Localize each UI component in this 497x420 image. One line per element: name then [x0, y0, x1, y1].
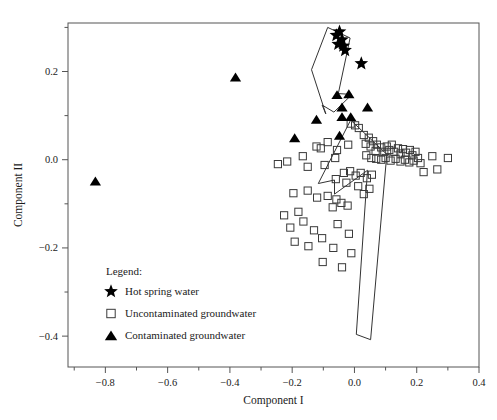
uncontaminated-groundwater-point — [304, 163, 311, 170]
contaminated-groundwater-point — [311, 115, 322, 124]
x-axis-tick-label: 0.0 — [348, 377, 361, 388]
x-axis-tick-label: 0.2 — [410, 377, 423, 388]
uncontaminated-groundwater-point — [305, 243, 312, 250]
triangle-marker-icon — [105, 330, 117, 340]
uncontaminated-groundwater-point — [300, 218, 307, 225]
uncontaminated-groundwater-point — [299, 153, 306, 160]
uncontaminated-groundwater-point — [429, 153, 436, 160]
contaminated-groundwater-point — [345, 112, 356, 121]
uncontaminated-groundwater-point — [392, 155, 399, 162]
uncontaminated-groundwater-point — [420, 169, 427, 176]
uncontaminated-groundwater-point — [314, 194, 321, 201]
uncontaminated-groundwater-point — [338, 264, 345, 271]
uncontaminated-groundwater-point — [295, 208, 302, 215]
uncontaminated-groundwater-point — [352, 172, 359, 179]
x-axis-tick-label: −0.2 — [283, 377, 302, 388]
x-axis-tick-label: −0.6 — [158, 377, 177, 388]
uncontaminated-groundwater-point — [304, 187, 311, 194]
scatter-plot-figure: −0.8−0.6−0.4−0.20.00.20.40.20.0−0.2−0.4 … — [0, 0, 497, 420]
uncontaminated-groundwater-point — [287, 224, 294, 231]
uncontaminated-groundwater-point — [417, 160, 424, 167]
contaminated-groundwater-point — [336, 102, 347, 111]
uncontaminated-groundwater-point — [330, 244, 337, 251]
contaminated-groundwater-point — [336, 112, 347, 121]
uncontaminated-groundwater-point — [284, 158, 291, 165]
axes-group: −0.8−0.6−0.4−0.20.00.20.40.20.0−0.2−0.4 — [39, 23, 486, 388]
uncontaminated-groundwater-point — [274, 161, 281, 168]
contaminated-groundwater-point — [289, 133, 300, 142]
uncontaminated-groundwater-point — [332, 176, 339, 183]
y-axis-tick-label: 0.2 — [45, 66, 58, 77]
legend-entry-label: Contaminated groundwater — [125, 329, 245, 341]
series-star — [330, 25, 369, 70]
series-square — [274, 120, 451, 271]
uncontaminated-groundwater-point — [434, 166, 441, 173]
contaminated-groundwater-point — [362, 102, 373, 111]
uncontaminated-groundwater-point — [345, 141, 352, 148]
uncontaminated-groundwater-point — [310, 227, 317, 234]
x-axis-tick-label: 0.4 — [472, 377, 486, 388]
y-axis-tick-label: 0.0 — [45, 154, 58, 165]
legend-entry: Contaminated groundwater — [105, 329, 246, 341]
legend-title: Legend: — [106, 265, 142, 277]
square-marker-icon — [107, 309, 115, 317]
uncontaminated-groundwater-point — [348, 250, 355, 257]
uncontaminated-groundwater-point — [363, 152, 370, 159]
uncontaminated-groundwater-point — [324, 139, 331, 146]
uncontaminated-groundwater-point — [444, 154, 451, 161]
uncontaminated-groundwater-point — [321, 161, 328, 168]
hot-spring-water-point — [354, 56, 368, 69]
star-marker-icon — [104, 284, 118, 297]
contaminated-groundwater-point — [230, 72, 241, 81]
legend-entry-label: Uncontaminated groundwater — [125, 307, 256, 319]
uncontaminated-groundwater-point — [334, 221, 341, 228]
contaminated-groundwater-point — [331, 90, 342, 99]
x-axis-tick-label: −0.8 — [96, 377, 115, 388]
series-triangle — [90, 72, 373, 185]
group-outline-polygons — [312, 27, 387, 339]
contaminated-groundwater-point — [90, 177, 101, 186]
legend-entry-label: Hot spring water — [125, 285, 199, 297]
legend: Legend:Hot spring waterUncontaminated gr… — [104, 265, 256, 341]
uncontaminated-groundwater-point — [319, 235, 326, 242]
x-axis-tick-label: −0.4 — [220, 377, 240, 388]
y-axis-tick-label: −0.4 — [39, 331, 59, 342]
uncontaminated-groundwater-point — [324, 192, 331, 199]
uncontaminated-groundwater-point — [355, 183, 362, 190]
legend-entry: Hot spring water — [104, 284, 199, 297]
uncontaminated-groundwater-point — [281, 212, 288, 219]
uncontaminated-groundwater-point — [317, 145, 324, 152]
data-points-group — [90, 25, 452, 271]
uncontaminated-groundwater-point — [329, 204, 336, 211]
uncontaminated-groundwater-point — [319, 258, 326, 265]
uncontaminated-groundwater-point — [291, 238, 298, 245]
uncontaminated-groundwater-point — [387, 157, 394, 164]
component-biplot-svg: −0.8−0.6−0.4−0.20.00.20.40.20.0−0.2−0.4 … — [0, 0, 497, 420]
x-axis-title: Component I — [243, 394, 304, 407]
uncontaminated-groundwater-point — [397, 158, 404, 165]
uncontaminated-groundwater-point — [290, 190, 297, 197]
y-axis-tick-label: −0.2 — [39, 242, 58, 253]
uncontaminated-groundwater-point — [345, 230, 352, 237]
legend-entry: Uncontaminated groundwater — [107, 307, 257, 319]
uncontaminated-groundwater-point — [406, 159, 413, 166]
upper-arrow-outline — [312, 27, 353, 114]
y-axis-title: Component II — [12, 163, 25, 227]
uncontaminated-groundwater-point — [313, 143, 320, 150]
